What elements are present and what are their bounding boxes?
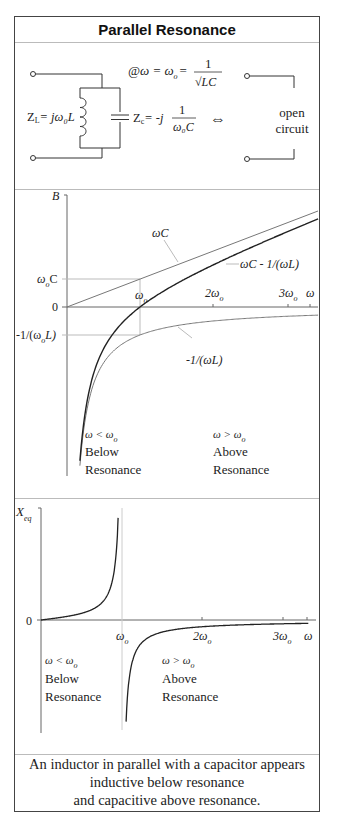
- below-label: Below: [45, 671, 80, 686]
- susceptance-chart: B ωoC 0 -1/(ωoL) ωo 2ωo 3ωo ω ωC ωC - 1/…: [16, 189, 318, 477]
- capacitor-icon: [111, 115, 129, 120]
- open-circuit-label: circuit: [275, 121, 309, 136]
- x-tick-2w0: 2ωo: [205, 286, 223, 303]
- capacitor-denominator: ω₀C: [173, 120, 195, 134]
- x-tick-w0: ωo: [135, 288, 147, 305]
- above-condition: ω > ωo: [162, 654, 194, 670]
- reactance-chart: Xeq 0 ωo 2ωo 3ωo ω ω < ωo Below Resonanc…: [15, 504, 316, 733]
- below-label: Resonance: [85, 462, 142, 477]
- above-label: Above: [213, 444, 248, 459]
- below-label: Resonance: [45, 689, 102, 704]
- capacitor-numerator: 1: [179, 103, 185, 117]
- diagram-canvas: ZL= jω₀L @ω = ωo= 1 √LC Zc= -j 1 ω₀C ⇔ o…: [0, 0, 337, 823]
- curve-label-neg: -1/(ωL): [186, 353, 222, 367]
- curve-label-omega-c: ωC: [152, 226, 169, 240]
- open-circuit-label: open: [279, 105, 305, 120]
- resonance-numerator: 1: [205, 56, 212, 71]
- tick-neg-inv-w0l: -1/(ωoL): [16, 328, 56, 345]
- curve-label-net: ωC - 1/(ωL): [240, 257, 299, 271]
- terminal-icon: [245, 157, 250, 162]
- below-condition: ω < ωo: [45, 654, 77, 670]
- inductor-icon: [80, 98, 86, 136]
- resonance-denominator: √LC: [195, 75, 217, 89]
- capacitor-impedance-label: Zc= -j: [133, 111, 164, 126]
- leader-line: [178, 327, 192, 338]
- equivalence-icon: ⇔: [210, 110, 226, 127]
- y-axis-label: B: [52, 189, 60, 203]
- x-axis-label: ω: [304, 629, 312, 643]
- tick-zero: 0: [26, 614, 32, 628]
- x-tick-3w0: 3ωo: [272, 629, 291, 646]
- curve-net-susceptance: [80, 219, 318, 461]
- terminal-icon: [245, 74, 250, 79]
- resonance-condition: @ω = ωo=: [128, 63, 187, 81]
- curve-xeq-below: [41, 518, 118, 620]
- below-label: Below: [85, 444, 120, 459]
- above-label: Resonance: [213, 462, 270, 477]
- terminal-icon: [31, 72, 36, 77]
- leader-line: [164, 240, 178, 262]
- y-axis-label: Xeq: [15, 504, 32, 523]
- x-axis-label: ω: [306, 286, 314, 300]
- x-tick-3w0: 3ωo: [278, 286, 297, 303]
- above-label: Resonance: [162, 689, 219, 704]
- below-condition: ω < ωo: [85, 428, 117, 444]
- above-condition: ω > ωo: [213, 428, 245, 444]
- terminal-icon: [31, 156, 36, 161]
- inductor-impedance-label: ZL= jω₀L: [27, 110, 75, 125]
- x-tick-2w0: 2ωo: [193, 629, 211, 646]
- tick-w0c: ωoC: [37, 272, 58, 289]
- tick-zero: 0: [52, 300, 58, 314]
- above-label: Above: [162, 671, 197, 686]
